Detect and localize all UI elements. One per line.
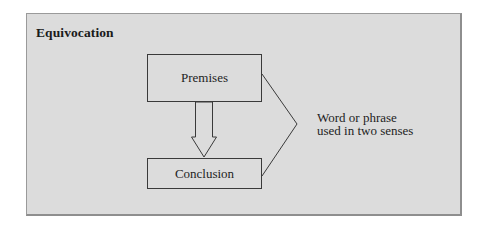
diagram-title: Equivocation [36, 25, 114, 41]
conclusion-box: Conclusion [147, 158, 262, 189]
equivocation-annotation: Word or phrase used in two senses [317, 111, 413, 137]
premises-box: Premises [147, 54, 262, 102]
premises-label: Premises [181, 70, 228, 86]
annotation-line-2: used in two senses [317, 124, 413, 137]
conclusion-label: Conclusion [175, 166, 234, 182]
